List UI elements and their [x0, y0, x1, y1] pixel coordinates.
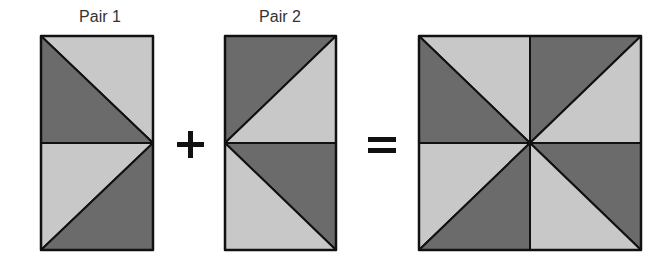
pair-2-block	[225, 36, 336, 250]
equals-sign	[368, 137, 396, 153]
quilt-diagram	[0, 0, 670, 271]
result-pinwheel-block	[419, 36, 641, 250]
plus-sign	[177, 131, 204, 158]
pair-1-block	[41, 36, 153, 250]
